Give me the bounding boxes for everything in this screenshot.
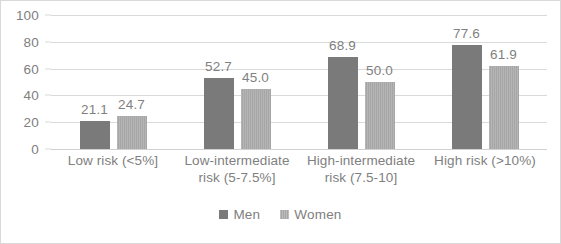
- bar-value-label: 45.0: [242, 70, 269, 85]
- bar-men[interactable]: 52.7: [204, 78, 234, 149]
- x-axis-category-labels: Low risk (<5%]Low-intermediaterisk (5-7.…: [51, 153, 547, 199]
- legend-item-women[interactable]: Women: [280, 207, 341, 222]
- bar-value-label: 52.7: [205, 59, 232, 74]
- y-tick-label: 80: [24, 34, 39, 49]
- bar-value-label: 21.1: [81, 102, 108, 117]
- y-tick-label: 60: [24, 61, 39, 76]
- bars-row: 21.124.7: [51, 15, 175, 149]
- y-tick-label: 0: [31, 142, 39, 157]
- bar-women[interactable]: 24.7: [117, 116, 147, 149]
- legend-item-men[interactable]: Men: [219, 207, 260, 222]
- bar-value-label: 68.9: [329, 38, 356, 53]
- legend-swatch-icon: [219, 210, 228, 219]
- category-label-line: Low risk (<5%]: [51, 153, 175, 170]
- y-tick-label: 100: [16, 8, 39, 23]
- bar-value-label: 24.7: [118, 97, 145, 112]
- gridline-0: [51, 149, 547, 150]
- category-label: High risk (>10%): [423, 153, 547, 170]
- bar-women[interactable]: 45.0: [241, 89, 271, 149]
- bar-chart-figure: 020406080100 21.124.752.745.068.950.077.…: [0, 0, 561, 244]
- y-tick-label: 20: [24, 115, 39, 130]
- bar-group: 21.124.7: [51, 15, 175, 149]
- category-label-line: risk (5-7.5%]: [175, 170, 299, 187]
- bar-women[interactable]: 50.0: [365, 82, 395, 149]
- plot-area: 21.124.752.745.068.950.077.661.9: [51, 15, 547, 149]
- category-label-line: Low-intermediate: [175, 153, 299, 170]
- category-label: Low-intermediaterisk (5-7.5%]: [175, 153, 299, 186]
- y-axis: 020406080100: [1, 1, 51, 163]
- legend-label: Men: [233, 207, 260, 222]
- bar-group: 68.950.0: [299, 15, 423, 149]
- bar-value-label: 50.0: [366, 63, 393, 78]
- chart-legend: MenWomen: [1, 207, 560, 222]
- category-label-line: High-intermediate: [299, 153, 423, 170]
- bar-group: 77.661.9: [423, 15, 547, 149]
- legend-label: Women: [294, 207, 341, 222]
- category-label: Low risk (<5%]: [51, 153, 175, 170]
- bar-men[interactable]: 68.9: [328, 57, 358, 149]
- bar-men[interactable]: 21.1: [80, 121, 110, 149]
- bars-row: 77.661.9: [423, 15, 547, 149]
- category-label-line: risk (7.5-10]: [299, 170, 423, 187]
- bar-men[interactable]: 77.6: [452, 45, 482, 149]
- bars-row: 68.950.0: [299, 15, 423, 149]
- bars-row: 52.745.0: [175, 15, 299, 149]
- legend-swatch-icon: [280, 210, 289, 219]
- bar-group: 52.745.0: [175, 15, 299, 149]
- bar-value-label: 77.6: [453, 26, 480, 41]
- bar-value-label: 61.9: [490, 47, 517, 62]
- y-tick-label: 40: [24, 88, 39, 103]
- bar-women[interactable]: 61.9: [489, 66, 519, 149]
- category-label-line: High risk (>10%): [423, 153, 547, 170]
- category-label: High-intermediaterisk (7.5-10]: [299, 153, 423, 186]
